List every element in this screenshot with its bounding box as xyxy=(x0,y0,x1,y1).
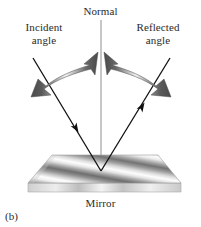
figure-caption: (b) xyxy=(5,210,18,223)
mirror-label: Mirror xyxy=(0,197,201,210)
mirror-slab xyxy=(28,155,181,192)
reflected-angle-label-line1: Reflected xyxy=(136,21,179,33)
incident-angle-label: Incident angle xyxy=(4,21,84,47)
mirror-front-face xyxy=(28,183,181,192)
normal-label: Normal xyxy=(0,5,201,18)
reflected-angle-label: Reflected angle xyxy=(118,21,198,47)
reflection-figure: Normal Incident angle Reflected angle Mi… xyxy=(0,0,201,227)
incident-angle-arrow xyxy=(31,52,98,97)
reflected-angle-arrow xyxy=(104,52,171,97)
incident-angle-label-line2: angle xyxy=(4,34,84,47)
incident-angle-label-line1: Incident xyxy=(26,21,63,33)
reflected-angle-label-line2: angle xyxy=(118,34,198,47)
